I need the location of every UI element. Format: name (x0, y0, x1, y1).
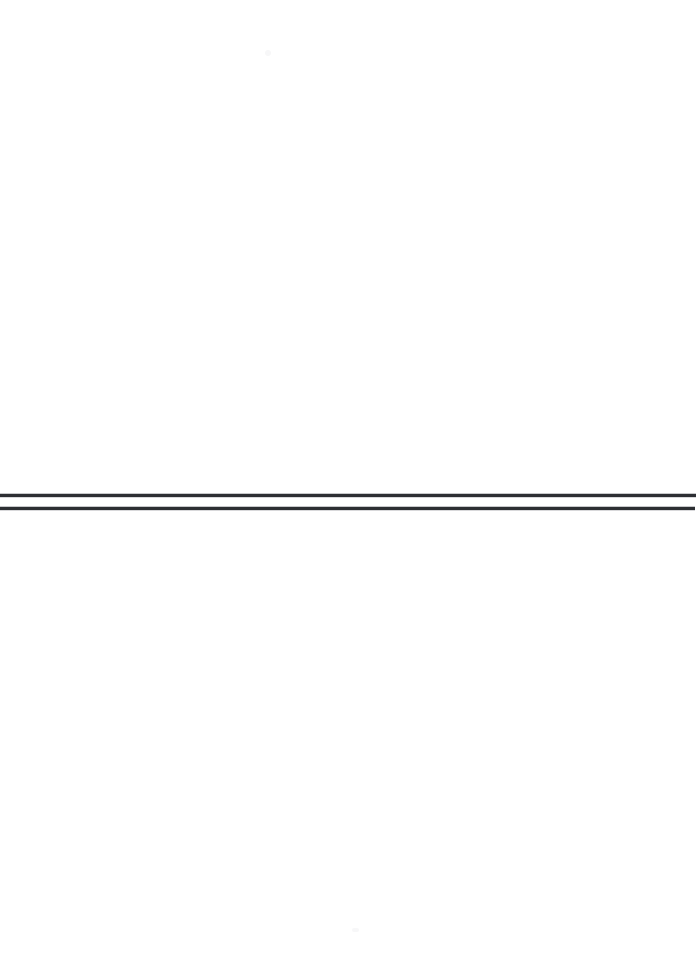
lower-horizontal-rule (0, 507, 695, 510)
horizontal-rule-band (0, 490, 699, 514)
scanned-page (0, 0, 699, 960)
upper-scan-speck (265, 50, 271, 56)
lower-scan-speck (352, 928, 359, 932)
upper-horizontal-rule (0, 494, 696, 497)
